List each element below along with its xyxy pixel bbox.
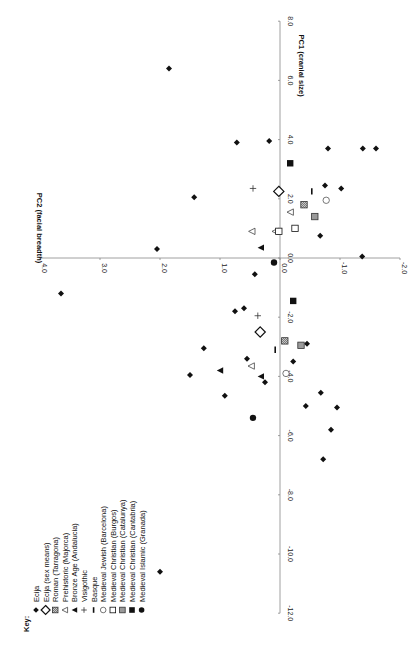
data-point <box>271 259 277 265</box>
legend-label: Medieval Islamic (Granada) <box>138 510 147 602</box>
series-medieval-islamic-granada <box>250 259 277 421</box>
data-point <box>318 390 324 396</box>
pc1-tick-label: -12.0 <box>287 605 294 621</box>
legend-label: Ecija <box>32 585 41 602</box>
pc2-tick-label: -2.0 <box>401 262 408 274</box>
legend-label: Bronze Age (Andalucia) <box>70 523 79 602</box>
pc1-tick-label: -8.0 <box>287 489 294 501</box>
pc2-axis-title: PC2 (facial breadth) <box>35 193 44 264</box>
data-point <box>191 194 197 200</box>
pc2-tick-label: 2.0 <box>161 263 168 273</box>
series-ecija-sex-means <box>255 186 284 337</box>
legend-item: Roman (Tarragona) <box>51 536 60 612</box>
data-point <box>290 298 296 304</box>
legend-label: Medieval Christian (Catalunya) <box>118 499 127 602</box>
series-medieval-jewish-barcelona <box>283 197 330 377</box>
data-point <box>266 138 272 144</box>
pc1-tick-label: 6.0 <box>287 76 294 86</box>
legend-item: Medieval Islamic (Granada) <box>138 510 147 613</box>
pc1-tick-label: 4.0 <box>287 135 294 145</box>
pc2-tick-label: 1.0 <box>221 263 228 273</box>
legend-marker-open-triangle-icon <box>62 607 68 613</box>
data-point <box>232 308 238 314</box>
legend-item: Bronze Age (Andalucia) <box>70 523 79 613</box>
pc1-tick-label: 8.0 <box>287 16 294 26</box>
legend-item: Medieval Christian (Cantabria) <box>128 500 137 613</box>
legend-item: Ecija (sex means) <box>41 542 50 615</box>
legend-label: Medieval Jewish (Barcelona) <box>99 506 108 602</box>
pc2-tick-label: 3.0 <box>101 263 108 273</box>
data-point <box>338 185 344 191</box>
data-point <box>301 202 307 208</box>
data-point <box>241 305 247 311</box>
legend-marker-open-circle-icon <box>100 607 106 613</box>
data-point <box>373 145 379 151</box>
data-point <box>250 185 256 191</box>
pca-scatter-chart: -12.0-10.0-8.0-6.0-4.0-2.00.02.04.06.08.… <box>0 0 420 652</box>
data-point <box>250 415 256 421</box>
series-prehistoric-majorca <box>248 209 293 369</box>
legend-label: Medieval Christian (Burgos) <box>109 509 118 602</box>
legend-marker-filled-triangle-icon <box>72 607 78 613</box>
series-visigothic <box>250 185 261 319</box>
axes: -12.0-10.0-8.0-6.0-4.0-2.00.02.04.06.08.… <box>35 16 408 621</box>
data-point <box>249 228 255 234</box>
data-point <box>274 186 284 196</box>
data-point <box>248 363 254 369</box>
data-point <box>298 342 304 348</box>
data-point <box>328 427 334 433</box>
data-points <box>58 66 379 575</box>
pc1-tick-label: 2.0 <box>287 194 294 204</box>
legend-label: Prehistoric (Majorca) <box>61 532 70 602</box>
data-point <box>157 569 163 575</box>
legend-marker-open-square-icon <box>110 607 116 613</box>
data-point <box>217 367 223 373</box>
legend-item: Medieval Christian (Catalunya) <box>118 499 127 613</box>
legend-marker-hatched-square-icon <box>52 607 58 613</box>
legend-marker-plus-icon <box>81 607 87 613</box>
legend-label: Medieval Christian (Cantabria) <box>128 500 137 602</box>
data-point <box>58 291 64 297</box>
legend-item: Prehistoric (Majorca) <box>61 532 70 612</box>
data-point <box>287 160 293 166</box>
data-point <box>283 370 289 376</box>
data-point <box>255 313 261 319</box>
data-point <box>276 228 282 234</box>
data-point <box>304 341 310 347</box>
pc1-tick-label: -2.0 <box>287 311 294 323</box>
data-point <box>154 246 160 252</box>
legend-title: Key: <box>22 616 31 632</box>
legend: Key:EcijaEcija (sex means)Roman (Tarrago… <box>22 499 147 632</box>
legend-item: Medieval Christian (Burgos) <box>109 509 118 613</box>
series-medieval-christian-cantabria <box>287 160 296 304</box>
pc1-tick-label: -10.0 <box>287 546 294 562</box>
legend-marker-gray-square-icon <box>120 607 126 613</box>
data-point <box>244 356 250 362</box>
legend-marker-filled-square-icon <box>129 607 135 613</box>
legend-marker-filled-circle-icon <box>139 607 145 613</box>
data-point <box>201 345 207 351</box>
data-point <box>312 213 318 219</box>
data-point <box>325 145 331 151</box>
series-medieval-christian-catalunya <box>298 213 318 348</box>
pc1-axis-title: PC1 (cranial size) <box>297 35 306 98</box>
legend-item: Visigothic <box>80 570 89 613</box>
legend-item: Medieval Jewish (Barcelona) <box>99 506 108 613</box>
series-medieval-christian-burgos <box>276 225 299 234</box>
data-point <box>252 271 258 277</box>
data-point <box>334 404 340 410</box>
data-point <box>166 66 172 72</box>
pc2-tick-label: -1.0 <box>341 262 348 274</box>
legend-item: Basque <box>90 577 99 613</box>
pc2-tick-label: 4.0 <box>41 263 48 273</box>
legend-label: Roman (Tarragona) <box>51 536 60 602</box>
data-point <box>292 225 298 231</box>
legend-label: Ecija (sex means) <box>42 542 51 602</box>
data-point <box>258 373 264 379</box>
data-point <box>234 140 240 146</box>
data-point <box>222 393 228 399</box>
pc2-tick-label: 0.0 <box>281 263 288 273</box>
data-point <box>255 327 265 337</box>
data-point <box>359 254 365 260</box>
legend-label: Visigothic <box>80 570 89 602</box>
